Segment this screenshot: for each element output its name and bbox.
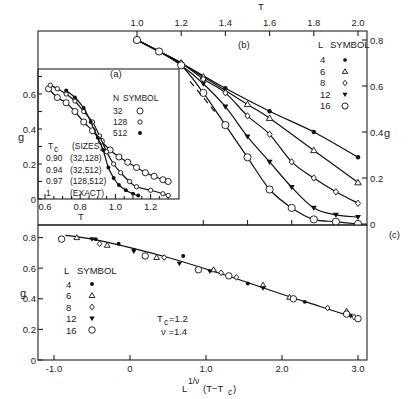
filled-circle-marker xyxy=(124,188,128,192)
x-title-rest: (T−T xyxy=(203,383,224,394)
open-circle-small-marker xyxy=(148,188,152,192)
filled-circle-marker xyxy=(138,131,142,135)
open-circle-marker xyxy=(332,218,339,225)
top-tick-label: 1.8 xyxy=(307,17,320,28)
c-y-tick-label: 0.6 xyxy=(23,263,36,274)
legend-l-value: 8 xyxy=(320,77,325,88)
top-tick-label: 1.4 xyxy=(219,17,232,28)
table-cell-sizes: (32,512) xyxy=(70,165,102,175)
x-title-close: ) xyxy=(233,383,236,394)
legend-l-value: 16 xyxy=(66,325,77,336)
open-circle-large-marker xyxy=(133,164,139,170)
open-circle-small-marker xyxy=(55,87,59,91)
open-circle-small-marker xyxy=(119,171,123,175)
open-circle-small-marker xyxy=(166,193,170,197)
table-cell-tc: 0.94 xyxy=(46,165,63,175)
open-diamond-marker xyxy=(311,175,316,181)
open-circle-marker xyxy=(58,236,64,242)
legend-n-value: 512 xyxy=(113,128,127,138)
open-circle-marker xyxy=(342,103,348,109)
table-cell-tc: 0.90 xyxy=(46,153,63,163)
table-cell-sizes: (32,128) xyxy=(70,153,102,163)
c-x-tick-label: 3.0 xyxy=(351,363,364,374)
inset-x-title: T xyxy=(78,211,84,222)
filled-circle-marker xyxy=(96,136,100,140)
top-axis-title: T xyxy=(258,1,264,12)
open-triangle-marker xyxy=(342,69,347,74)
open-circle-marker xyxy=(355,315,361,321)
open-circle-large-marker xyxy=(54,94,60,100)
x-title-L: L xyxy=(182,383,187,394)
inset-y-tick-label: 0 xyxy=(31,194,36,205)
open-diamond-marker xyxy=(333,189,338,195)
open-triangle-marker xyxy=(89,293,95,298)
filled-circle-marker xyxy=(94,237,98,241)
open-circle-marker xyxy=(290,296,296,302)
panel-a-label: (a) xyxy=(110,68,122,79)
open-circle-small-marker xyxy=(111,162,115,166)
filled-triangle-down-marker xyxy=(311,206,317,211)
inset-y-tick-label: 0.2 xyxy=(23,159,36,170)
filled-circle-marker xyxy=(181,254,185,258)
legend-header-symbol: SYMBOL xyxy=(123,93,159,103)
filled-circle-marker xyxy=(131,192,135,196)
panel-a-y-axis: 00.20.40.6 xyxy=(23,77,42,205)
right-tick-label: 0.2 xyxy=(370,173,383,184)
c-x-tick-label: 2.0 xyxy=(275,363,288,374)
open-circle-marker xyxy=(288,204,295,211)
panel-c-label: (c) xyxy=(389,229,400,240)
open-circle-large-marker xyxy=(125,159,131,165)
top-tick-label: 1.2 xyxy=(175,17,188,28)
right-tick-label: 0.4 xyxy=(370,127,383,138)
panel-a-inset: 0.60.81.01.2 00.20.40.6 g T (a) NSYMBOL3… xyxy=(18,68,179,222)
table-cell-sizes: (128,512) xyxy=(70,176,107,186)
open-circle-small-marker xyxy=(134,185,138,189)
open-diamond-marker xyxy=(97,241,102,247)
open-circle-marker xyxy=(226,273,232,279)
figure: 1.01.21.41.61.82.0 00.20.40.60.8 T g (b)… xyxy=(0,0,409,399)
legend-l-value: 4 xyxy=(320,54,325,65)
table-cell-tc: 1 xyxy=(46,188,51,198)
open-circle-large-marker xyxy=(142,170,148,176)
filled-circle-marker xyxy=(106,166,110,170)
filled-circle-marker xyxy=(112,176,116,180)
open-circle-small-marker xyxy=(127,179,131,183)
open-circle-small-marker xyxy=(64,92,68,96)
annot-nu: ν =1.4 xyxy=(161,326,187,337)
inset-y-tick-label: 0.4 xyxy=(23,124,36,135)
filled-circle-marker xyxy=(136,194,140,198)
inset-y-tick-label: 0.6 xyxy=(23,89,36,100)
panel-c-x-axis: -1.001.02.03.0 xyxy=(46,355,365,374)
open-diamond-marker xyxy=(343,80,347,85)
table-header-tc: T xyxy=(48,141,53,151)
panel-b-legend: LSYMBOL4681216 xyxy=(318,39,370,111)
c-y-tick-label: 0.8 xyxy=(23,232,36,243)
filled-triangle-down-marker xyxy=(342,93,347,97)
open-circle-small-marker xyxy=(104,150,108,154)
open-circle-large-marker xyxy=(165,178,171,184)
filled-circle-marker xyxy=(89,120,93,124)
open-circle-small-marker xyxy=(48,83,52,87)
open-circle-marker xyxy=(222,122,229,129)
c-x-tick-label: 1.0 xyxy=(199,363,212,374)
c-y-tick-label: 0 xyxy=(31,355,36,366)
annot-tc-val: =1.2 xyxy=(169,313,188,324)
x-title-exponent: 1/ν xyxy=(188,376,199,386)
open-triangle-marker xyxy=(266,115,272,120)
open-circle-small-marker xyxy=(161,192,165,196)
right-tick-label: 0 xyxy=(370,219,375,230)
filled-circle-marker xyxy=(82,106,86,110)
filled-triangle-down-marker xyxy=(131,249,136,254)
panel-c-legend: LSYMBOL4681216 xyxy=(64,265,117,336)
legend-header-n: N xyxy=(113,93,119,103)
filled-circle-marker xyxy=(303,300,307,304)
c-x-tick-label: -1.0 xyxy=(46,363,62,374)
panel-c-frame xyxy=(38,225,367,360)
legend-header-l: L xyxy=(318,39,323,50)
open-diamond-marker xyxy=(355,200,360,206)
filled-circle-marker xyxy=(90,282,94,286)
open-triangle-marker xyxy=(311,147,317,152)
table-cell-tc: 0.97 xyxy=(46,176,63,186)
open-circle-marker xyxy=(200,89,207,96)
inset-x-tick-label: 0.6 xyxy=(38,201,51,212)
